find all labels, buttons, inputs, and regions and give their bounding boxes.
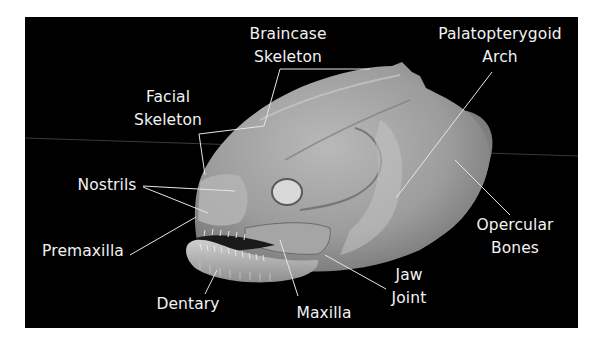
- jaw-joint-line2: Joint: [382, 287, 436, 310]
- snout-shape: [198, 174, 248, 225]
- label-premaxilla: Premaxilla: [36, 240, 130, 263]
- nostrils-text: Nostrils: [72, 174, 142, 197]
- facial-line1: Facial: [123, 86, 213, 109]
- jaw-joint-line1: Jaw: [382, 264, 436, 287]
- label-maxilla: Maxilla: [286, 302, 362, 325]
- palatopterygoid-line2: Arch: [425, 46, 575, 69]
- opercular-line1: Opercular: [472, 214, 558, 237]
- facial-leader: [199, 134, 205, 175]
- label-palatopterygoid-arch: Palatopterygoid Arch: [425, 23, 575, 69]
- braincase-line1: Braincase: [238, 23, 338, 46]
- label-opercular-bones: Opercular Bones: [472, 214, 558, 260]
- braincase-line2: Skeleton: [238, 46, 338, 69]
- dentary-text: Dentary: [150, 293, 226, 316]
- premaxilla-text: Premaxilla: [36, 240, 130, 263]
- palatopterygoid-line1: Palatopterygoid: [425, 23, 575, 46]
- eye-socket: [272, 179, 302, 205]
- label-braincase-skeleton: Braincase Skeleton: [238, 23, 338, 69]
- maxilla-text: Maxilla: [286, 302, 362, 325]
- label-nostrils: Nostrils: [72, 174, 142, 197]
- opercular-line2: Bones: [472, 237, 558, 260]
- premaxilla-leader: [130, 217, 196, 255]
- facial-line2: Skeleton: [123, 109, 213, 132]
- label-facial-skeleton: Facial Skeleton: [123, 86, 213, 132]
- label-dentary: Dentary: [150, 293, 226, 316]
- label-jaw-joint: Jaw Joint: [382, 264, 436, 310]
